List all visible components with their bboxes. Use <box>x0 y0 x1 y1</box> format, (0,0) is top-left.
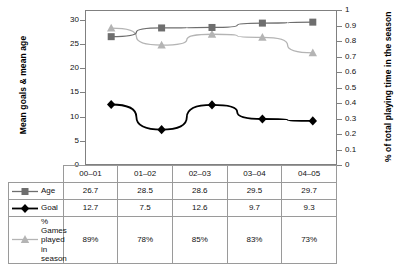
square-marker <box>22 188 29 195</box>
table-cell: 28.6 <box>172 183 227 200</box>
y-tick-label-right: 0.2 <box>345 129 367 138</box>
y-tick-label-right: 0.3 <box>345 114 367 123</box>
plot-area <box>85 10 337 165</box>
table-cell: 29.5 <box>227 183 282 200</box>
y-tick-label-right: 0.6 <box>345 67 367 76</box>
legend-entry: % Games played in season <box>12 217 63 263</box>
column-header: 04–05 <box>282 166 337 183</box>
y-tick-label-right: 0 <box>345 160 367 169</box>
y-tick-label-right: 0.5 <box>345 83 367 92</box>
legend-cell: Goal <box>9 200 64 217</box>
table-cell: 26.7 <box>63 183 118 200</box>
legend-cell: % Games played in season <box>9 217 64 264</box>
y-tick-label-left: 25 <box>57 39 79 48</box>
square-marker <box>259 20 266 27</box>
square-marker <box>209 24 216 31</box>
table-cell: 73% <box>282 217 337 264</box>
table-cell: 83% <box>227 217 282 264</box>
y-tick-label-left: 15 <box>57 87 79 96</box>
table-row: Goal12.77.512.69.79.3 <box>9 200 337 217</box>
y-tick-label-right: 1 <box>345 5 367 14</box>
square-marker <box>309 19 316 26</box>
legend-entry: Age <box>12 186 63 197</box>
column-header: 01–02 <box>118 166 173 183</box>
legend-cell: Age <box>9 183 64 200</box>
y-tick-label-left: 20 <box>57 63 79 72</box>
column-header: 02–03 <box>172 166 227 183</box>
column-header: 00–01 <box>63 166 118 183</box>
y-axis-title-right: % of total playing time in the season <box>383 12 393 162</box>
square-marker <box>108 33 115 40</box>
table-cell: 78% <box>118 217 173 264</box>
diamond-marker <box>208 100 216 109</box>
diamond-marker <box>309 116 317 125</box>
y-tick-label-right: 0.7 <box>345 52 367 61</box>
y-tick-label-right: 0.4 <box>345 98 367 107</box>
legend-label: Goal <box>41 203 58 212</box>
series-goal <box>107 100 317 134</box>
table-cell: 9.3 <box>282 200 337 217</box>
table-header-row: 00–0101–0202–0303–0404–05 <box>9 166 337 183</box>
diamond-marker <box>21 203 29 212</box>
y-tick-label-left: 30 <box>57 15 79 24</box>
y-tick-label-right: 0.9 <box>345 21 367 30</box>
triangle-icon <box>12 234 38 245</box>
y-tick-label-right: 0.8 <box>345 36 367 45</box>
data-table: 00–0101–0202–0303–0404–05Age26.728.528.6… <box>8 165 337 264</box>
series-lines <box>86 11 338 166</box>
table-cell: 12.7 <box>63 200 118 217</box>
y-axis-title-left: Mean goals & mean age <box>18 15 28 155</box>
diamond-marker <box>157 125 165 134</box>
chart-figure: Mean goals & mean age % of total playing… <box>0 0 403 272</box>
table-row: % Games played in season89%78%85%83%73% <box>9 217 337 264</box>
y-tick-label-left: 5 <box>57 136 79 145</box>
table-cell: 9.7 <box>227 200 282 217</box>
table-cell: 12.6 <box>172 200 227 217</box>
diamond-icon <box>12 203 38 214</box>
table-cell: 7.5 <box>118 200 173 217</box>
table-cell: 89% <box>63 217 118 264</box>
table-cell: 28.5 <box>118 183 173 200</box>
table-corner-spacer <box>9 166 64 183</box>
square-icon <box>12 186 38 197</box>
table-row: Age26.728.528.629.529.7 <box>9 183 337 200</box>
legend-entry: Goal <box>12 203 63 214</box>
y-tick-label-left: 10 <box>57 112 79 121</box>
legend-label: % Games played in season <box>41 217 67 263</box>
table-cell: 29.7 <box>282 183 337 200</box>
column-header: 03–04 <box>227 166 282 183</box>
legend-label: Age <box>41 186 55 195</box>
table-cell: 85% <box>172 217 227 264</box>
diamond-marker <box>258 114 266 123</box>
y-tick-label-right: 0.1 <box>345 145 367 154</box>
square-marker <box>158 24 165 31</box>
diamond-marker <box>107 100 115 109</box>
